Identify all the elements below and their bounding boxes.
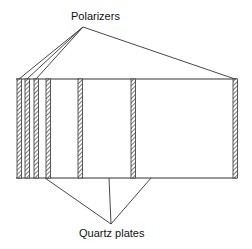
diagram-canvas bbox=[0, 0, 252, 249]
polarizers-label: Polarizers bbox=[71, 10, 120, 22]
plates bbox=[17, 79, 238, 178]
quartz-plates-label: Quartz plates bbox=[79, 227, 144, 239]
quartz-plate-2 bbox=[78, 79, 83, 178]
polarizer-leader-lines bbox=[19, 27, 235, 79]
quartz-leader-lines bbox=[45, 178, 151, 224]
quartz-plate-3 bbox=[131, 79, 136, 178]
diagram: Polarizers Quartz plates bbox=[0, 0, 252, 249]
polarizer-plate-2 bbox=[25, 79, 30, 178]
quartz-plate-1 bbox=[46, 79, 51, 178]
polarizer-plate-1 bbox=[17, 79, 22, 178]
polarizer-plate-4 bbox=[233, 79, 238, 178]
polarizer-plate-3 bbox=[34, 79, 39, 178]
